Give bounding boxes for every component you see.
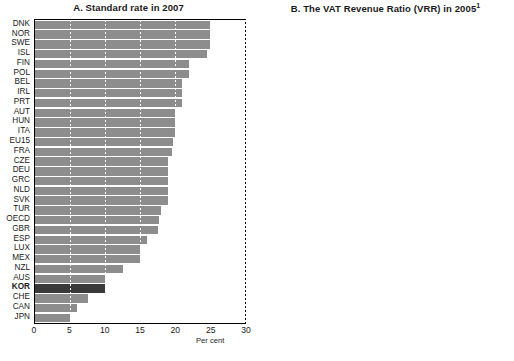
category-label-can: CAN — [0, 302, 32, 312]
bar-prt — [35, 99, 182, 107]
bar-esp — [35, 236, 147, 244]
category-label-fra: FRA — [0, 146, 32, 156]
bar-bel — [35, 79, 182, 87]
panel-b: B. The VAT Revenue Ratio (VRR) in 20051 … — [257, 0, 514, 361]
bar-fra — [35, 148, 172, 156]
category-label-dnk: DNK — [0, 19, 32, 29]
bar-svk — [35, 196, 168, 204]
bar-row — [35, 245, 245, 255]
vat-comparison-figure: A. Standard rate in 2007 DNKNORSWEISLFIN… — [0, 0, 514, 361]
x-tick-label: 10 — [100, 325, 110, 336]
panel-b-title-text: B. The VAT Revenue Ratio (VRR) in 2005 — [291, 3, 477, 14]
bar-eu15 — [35, 138, 173, 146]
bar-nor — [35, 30, 210, 38]
panel-a: A. Standard rate in 2007 DNKNORSWEISLFIN… — [0, 0, 257, 361]
category-label-che: CHE — [0, 292, 32, 302]
bar-swe — [35, 40, 210, 48]
category-label-jpn: JPN — [0, 312, 32, 322]
bar-row — [35, 40, 245, 50]
bar-row — [35, 284, 245, 294]
category-label-hun: HUN — [0, 117, 32, 127]
bar-che — [35, 294, 88, 302]
bar-row — [35, 303, 245, 313]
category-label-eu15: EU15 — [0, 136, 32, 146]
panel-b-title: B. The VAT Revenue Ratio (VRR) in 20051 — [257, 2, 514, 14]
category-label-cze: CZE — [0, 156, 32, 166]
bar-can — [35, 304, 77, 312]
category-label-ita: ITA — [0, 126, 32, 136]
bar-row — [35, 293, 245, 303]
bar-row — [35, 88, 245, 98]
bar-row — [35, 137, 245, 147]
category-label-bel: BEL — [0, 78, 32, 88]
panel-a-bars — [35, 20, 245, 323]
bar-pol — [35, 70, 189, 78]
category-label-esp: ESP — [0, 234, 32, 244]
bar-row — [35, 166, 245, 176]
bar-nzl — [35, 265, 123, 273]
category-label-pol: POL — [0, 68, 32, 78]
bar-row — [35, 108, 245, 118]
bar-jpn — [35, 314, 70, 322]
bar-row — [35, 235, 245, 245]
panel-a-unit-label: Per cent — [196, 336, 224, 345]
bar-row — [35, 186, 245, 196]
x-tick-label: 15 — [135, 325, 145, 336]
x-tick-label: 30 — [241, 325, 251, 336]
bar-row — [35, 20, 245, 30]
bar-hun — [35, 118, 175, 126]
bar-row — [35, 215, 245, 225]
category-label-nzl: NZL — [0, 263, 32, 273]
bar-lux — [35, 245, 140, 253]
bar-row — [35, 69, 245, 79]
category-label-swe: SWE — [0, 39, 32, 49]
bar-row — [35, 98, 245, 108]
bar-row — [35, 176, 245, 186]
bar-row — [35, 264, 245, 274]
category-label-svk: SVK — [0, 195, 32, 205]
category-label-grc: GRC — [0, 175, 32, 185]
bar-kor — [35, 284, 105, 292]
bar-row — [35, 118, 245, 128]
category-label-lux: LUX — [0, 244, 32, 254]
bar-irl — [35, 89, 182, 97]
bar-aus — [35, 275, 105, 283]
category-label-kor: KOR — [0, 283, 32, 293]
category-label-aus: AUS — [0, 273, 32, 283]
bar-row — [35, 147, 245, 157]
category-label-isl: ISL — [0, 48, 32, 58]
category-label-deu: DEU — [0, 165, 32, 175]
bar-deu — [35, 167, 168, 175]
bar-row — [35, 157, 245, 167]
bar-row — [35, 49, 245, 59]
category-label-prt: PRT — [0, 97, 32, 107]
bar-row — [35, 206, 245, 216]
bar-mex — [35, 255, 140, 263]
bar-aut — [35, 109, 175, 117]
bar-oecd — [35, 216, 159, 224]
category-label-nld: NLD — [0, 185, 32, 195]
bar-fin — [35, 60, 189, 68]
bar-row — [35, 254, 245, 264]
bar-row — [35, 196, 245, 206]
bar-row — [35, 313, 245, 323]
category-label-fin: FIN — [0, 58, 32, 68]
bar-isl — [35, 50, 207, 58]
x-tick-label: 0 — [32, 325, 37, 336]
panel-a-plot-area — [34, 19, 246, 324]
bar-row — [35, 30, 245, 40]
panel-b-title-footnote-marker: 1 — [476, 2, 480, 9]
bar-nld — [35, 187, 168, 195]
category-label-nor: NOR — [0, 29, 32, 39]
category-label-tur: TUR — [0, 205, 32, 215]
category-label-mex: MEX — [0, 253, 32, 263]
panel-a-category-labels: DNKNORSWEISLFINPOLBELIRLPRTAUTHUNITAEU15… — [0, 19, 32, 324]
x-tick-label: 20 — [171, 325, 181, 336]
bar-dnk — [35, 21, 210, 29]
x-tick-label: 5 — [67, 325, 72, 336]
bar-row — [35, 274, 245, 284]
category-label-irl: IRL — [0, 87, 32, 97]
category-label-aut: AUT — [0, 107, 32, 117]
bar-row — [35, 225, 245, 235]
category-label-oecd: OECD — [0, 214, 32, 224]
